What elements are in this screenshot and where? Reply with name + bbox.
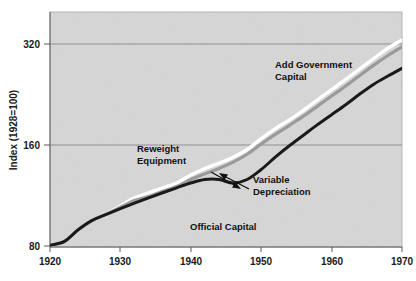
annotation-reweight-equipment-line-2: Equipment xyxy=(137,155,187,166)
y-axis-title: Index (1928=100) xyxy=(8,90,19,170)
x-tick-label-1970: 1970 xyxy=(391,256,414,267)
x-tick-label-1950: 1950 xyxy=(250,256,273,267)
plot-background xyxy=(50,12,402,247)
y-tick-label-320: 320 xyxy=(23,39,40,50)
x-tick-label-1930: 1930 xyxy=(109,256,132,267)
annotation-add-government-capital-line-1: Add Government xyxy=(275,59,353,70)
annotation-add-government-capital-line-2: Capital xyxy=(275,71,307,82)
x-tick-label-1940: 1940 xyxy=(180,256,203,267)
y-tick-label-80: 80 xyxy=(29,241,41,252)
annotation-variable-depreciation-line-2: Depreciation xyxy=(253,186,311,197)
plot-area xyxy=(50,12,402,247)
annotation-official-capital-line-1: Official Capital xyxy=(190,221,257,232)
annotation-reweight-equipment-line-1: Reweight xyxy=(137,143,180,154)
annotation-official-capital: Official Capital xyxy=(190,221,257,232)
y-tick-label-160: 160 xyxy=(23,140,40,151)
x-tick-label-1960: 1960 xyxy=(321,256,344,267)
line-chart: 320 160 80 Index (1928=100) 1920 1930 19… xyxy=(0,0,416,281)
annotation-variable-depreciation-line-1: Variable xyxy=(253,174,289,185)
chart-container: 320 160 80 Index (1928=100) 1920 1930 19… xyxy=(0,0,416,281)
x-tick-label-1920: 1920 xyxy=(39,256,62,267)
